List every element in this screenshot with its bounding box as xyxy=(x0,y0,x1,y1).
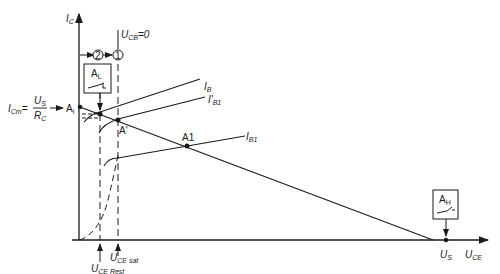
load-line xyxy=(80,107,433,240)
ib1-prime-curve xyxy=(99,97,205,133)
ucb-label: UCB=0 xyxy=(121,29,150,41)
point-ah xyxy=(444,238,449,243)
ib1-prime-label: I'B1 xyxy=(208,94,221,106)
icm-label: ICm= xyxy=(8,103,28,115)
a1-label: A1 xyxy=(182,132,195,143)
marker-2-label: 2 xyxy=(95,50,101,61)
point-ai xyxy=(78,105,83,110)
marker-1-label: 1 xyxy=(115,50,121,61)
a-prime-label: A' xyxy=(119,125,128,136)
us-numerator: US xyxy=(34,95,46,107)
uce-sat-label: UCE sat xyxy=(110,252,139,264)
y-axis-label: IC xyxy=(66,13,75,25)
saturation-curve xyxy=(80,155,118,240)
ai-label: Ai xyxy=(66,103,75,115)
point-a-prime xyxy=(116,118,121,123)
x-axis-label: UCE xyxy=(465,249,482,261)
transistor-switch-diagram: IC UCE UCB=0 2 1 AL IB I'B1 IB1 Ai A' A1… xyxy=(0,0,500,274)
ib-label: IB xyxy=(204,81,212,93)
point-al xyxy=(98,112,103,117)
uce-rest-label: UCE Rest xyxy=(91,263,125,274)
rc-denominator: RC xyxy=(34,110,47,122)
us-label: US xyxy=(440,249,452,261)
ib1-label: IB1 xyxy=(246,131,257,143)
point-a1 xyxy=(185,144,190,149)
